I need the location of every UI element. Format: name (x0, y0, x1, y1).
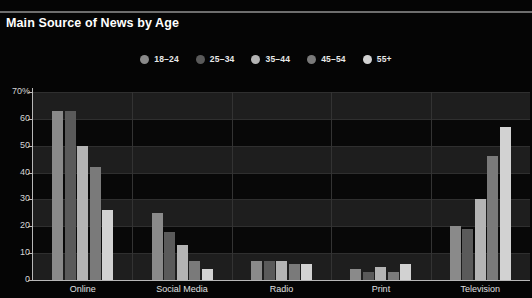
bar[interactable] (375, 267, 386, 280)
y-tick-mark (28, 280, 33, 281)
bar[interactable] (90, 167, 101, 280)
x-axis-category-label: Social Media (132, 284, 231, 294)
y-tick-mark (28, 253, 33, 254)
bar[interactable] (400, 264, 411, 280)
bar[interactable] (251, 261, 262, 280)
legend-swatch-icon (140, 55, 149, 64)
plot-band (33, 119, 530, 146)
chart-screenshot: Main Source of News by Age 18–2425–3435–… (0, 0, 532, 298)
bar[interactable] (52, 111, 63, 280)
legend-swatch-icon (307, 55, 316, 64)
y-tick-mark (28, 92, 33, 93)
x-axis-category-label: Radio (232, 284, 331, 294)
bar[interactable] (189, 261, 200, 280)
y-tick: 50 (0, 141, 30, 150)
y-tick-mark (28, 119, 33, 120)
y-tick-mark (28, 146, 33, 147)
legend-item[interactable]: 35–44 (251, 54, 290, 64)
y-tick: 20 (0, 221, 30, 230)
horizontal-gridline (33, 119, 530, 120)
horizontal-gridline (33, 199, 530, 200)
legend-item[interactable]: 45–54 (307, 54, 346, 64)
legend-item-label: 25–34 (210, 54, 235, 64)
horizontal-gridline (33, 173, 530, 174)
legend-item[interactable]: 55+ (363, 54, 392, 64)
bar[interactable] (487, 156, 498, 280)
bar[interactable] (450, 226, 461, 280)
y-axis-line (32, 88, 33, 280)
horizontal-gridline (33, 146, 530, 147)
bar[interactable] (152, 213, 163, 280)
y-tick: 70% (0, 87, 30, 96)
y-tick: 10 (0, 248, 30, 257)
bar[interactable] (301, 264, 312, 280)
legend-item[interactable]: 25–34 (196, 54, 235, 64)
bar[interactable] (164, 232, 175, 280)
plot-area (33, 92, 530, 280)
x-axis-line (32, 280, 530, 281)
bar[interactable] (202, 269, 213, 280)
bar[interactable] (388, 272, 399, 280)
bar[interactable] (177, 245, 188, 280)
group-separator-gridline (132, 92, 133, 280)
plot-band (33, 173, 530, 200)
y-tick-mark (28, 226, 33, 227)
y-tick: 0 (0, 275, 30, 284)
legend-swatch-icon (251, 55, 260, 64)
y-tick: 60 (0, 114, 30, 123)
chart-title: Main Source of News by Age (6, 16, 179, 30)
group-separator-gridline (232, 92, 233, 280)
chart-legend: 18–2425–3435–4445–5455+ (0, 54, 532, 64)
legend-swatch-icon (196, 55, 205, 64)
y-tick-mark (28, 199, 33, 200)
bar[interactable] (289, 264, 300, 280)
bar[interactable] (102, 210, 113, 280)
y-tick-mark (28, 173, 33, 174)
plot-wrapper: 70%6050403020100 OnlineSocial MediaRadio… (0, 84, 532, 298)
y-tick: 40 (0, 168, 30, 177)
legend-item[interactable]: 18–24 (140, 54, 179, 64)
legend-item-label: 35–44 (265, 54, 290, 64)
bar[interactable] (276, 261, 287, 280)
header-divider (0, 11, 532, 13)
bar[interactable] (264, 261, 275, 280)
x-axis-category-label: Online (33, 284, 132, 294)
legend-item-label: 55+ (377, 54, 392, 64)
bar[interactable] (462, 229, 473, 280)
x-axis-category-label: Television (431, 284, 530, 294)
x-axis-category-label: Print (331, 284, 430, 294)
y-tick: 30 (0, 194, 30, 203)
bar[interactable] (475, 199, 486, 280)
bar[interactable] (350, 269, 361, 280)
bar[interactable] (77, 146, 88, 280)
plot-band (33, 92, 530, 119)
bar[interactable] (500, 127, 511, 280)
plot-band (33, 146, 530, 173)
legend-item-label: 45–54 (321, 54, 346, 64)
bar[interactable] (363, 272, 374, 280)
horizontal-gridline (33, 92, 530, 93)
legend-swatch-icon (363, 55, 372, 64)
group-separator-gridline (331, 92, 332, 280)
group-separator-gridline (431, 92, 432, 280)
bar[interactable] (65, 111, 76, 280)
legend-item-label: 18–24 (154, 54, 179, 64)
